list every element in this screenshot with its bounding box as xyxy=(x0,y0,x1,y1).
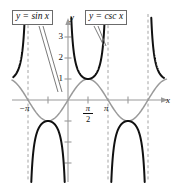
label-csc-x: y = csc x xyxy=(85,10,127,25)
y-tick-label-3: 3 xyxy=(53,31,63,41)
pi-over-2-numerator: π xyxy=(81,104,95,113)
csc-branch-right-upper xyxy=(151,18,164,78)
csc-branch-neg-half-pi xyxy=(31,121,64,182)
csc-branch-3half-pi xyxy=(111,121,144,182)
x-axis-label: x xyxy=(166,95,170,105)
csc-branch-left-upper xyxy=(13,18,24,77)
csc-branch-half-pi xyxy=(71,18,104,79)
plot-canvas xyxy=(0,0,177,184)
label-sin-x: y = sin x xyxy=(12,10,53,25)
pi-over-2-denominator: 2 xyxy=(81,115,95,124)
x-tick-label-neg-pi: −π xyxy=(19,103,30,113)
y-tick-label-1: 1 xyxy=(53,73,63,83)
axes xyxy=(12,20,168,182)
y-axis-label: y xyxy=(70,12,74,22)
y-tick-label-2: 2 xyxy=(53,52,63,62)
x-tick-label-pi: π xyxy=(104,103,109,113)
trig-graph-figure: y = sin x y = csc x y x 3 2 1 −π π π 2 xyxy=(0,0,177,184)
x-tick-label-pi-over-2: π 2 xyxy=(81,104,95,123)
